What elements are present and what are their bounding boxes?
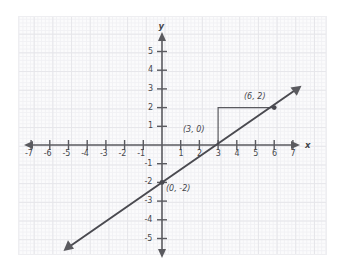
point-label-3-0: (3, 0) [183, 126, 205, 134]
y-tick-label-neg2: -2 [145, 178, 153, 186]
x-tick-label-neg5: -5 [63, 150, 71, 158]
x-tick-label-neg4: -4 [81, 150, 89, 158]
graph-figure: -7 -6 -5 -4 -3 -2 -1 1 2 3 4 5 6 7 5 4 3… [0, 0, 345, 271]
point-label-0-neg2: (0, -2) [166, 185, 190, 193]
y-tick-label-2: 2 [148, 104, 153, 112]
y-tick-label-neg1: -1 [145, 160, 153, 168]
point-label-6-2: (6, 2) [244, 93, 266, 101]
y-tick-label-neg5: -5 [145, 235, 153, 243]
y-tick-label-3: 3 [148, 85, 153, 93]
x-tick-label-neg7: -7 [25, 150, 33, 158]
plotted-line [64, 86, 302, 251]
x-tick-label-7: 7 [291, 150, 296, 158]
y-tick-label-neg3: -3 [145, 197, 153, 205]
x-tick-label-neg2: -2 [119, 150, 127, 158]
x-tick-label-neg6: -6 [44, 150, 52, 158]
x-tick-label-4: 4 [235, 150, 240, 158]
y-tick-label-neg4: -4 [145, 216, 153, 224]
x-tick-label-2: 2 [197, 150, 202, 158]
point-marker-6-2 [272, 105, 277, 110]
y-tick-label-4: 4 [148, 66, 153, 74]
y-axis-label: y [159, 22, 165, 31]
x-axis-label: x [305, 141, 310, 150]
coordinate-plane-plot [0, 0, 345, 271]
y-tick-label-5: 5 [148, 48, 153, 56]
x-tick-label-5: 5 [253, 150, 258, 158]
slope-triangle-box [218, 108, 274, 145]
x-tick-label-neg1: -1 [137, 150, 145, 158]
x-tick-label-1: 1 [178, 150, 183, 158]
y-tick-label-1: 1 [148, 122, 153, 130]
x-tick-label-neg3: -3 [100, 150, 108, 158]
x-tick-label-3: 3 [216, 150, 221, 158]
point-marker-0-neg2 [160, 180, 165, 185]
x-tick-label-6: 6 [272, 150, 277, 158]
